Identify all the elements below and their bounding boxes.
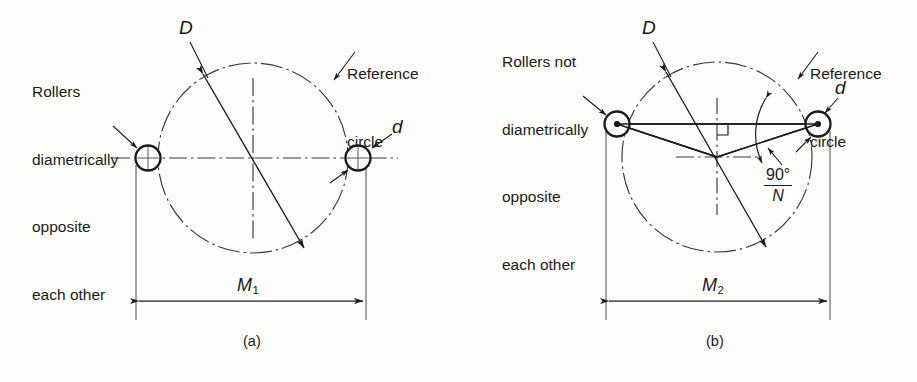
right-angle-mark-b xyxy=(717,124,728,135)
rollers-note-a-line-2: diametrically xyxy=(32,149,118,172)
angle-label-leader-b xyxy=(768,148,782,165)
roller-diameter-arrow-lower-a xyxy=(330,170,348,183)
reference-circle-label-b: Reference circle xyxy=(810,18,882,198)
dimension-label-b: M2 xyxy=(702,276,724,296)
reference-circle-label-a-line-2: circle xyxy=(347,131,419,154)
reference-circle-label-a-line-1: Reference xyxy=(347,63,419,86)
angle-fraction-numerator-b: 90° xyxy=(764,166,792,186)
panel-caption-b: (b) xyxy=(706,334,724,349)
rollers-note-b: Rollers not diametrically opposite each … xyxy=(502,6,588,321)
dimension-label-b-letter: M xyxy=(702,275,717,295)
angle-arc-b xyxy=(756,98,766,163)
diameter-arrow-b xyxy=(666,72,766,247)
figure-canvas: Rollers diametrically opposite each othe… xyxy=(0,0,917,382)
angle-fraction-b: 90° N xyxy=(764,166,792,205)
diameter-symbol-a: D xyxy=(179,18,193,37)
angle-fraction-denominator-b: N xyxy=(764,186,792,205)
rollers-note-b-line-4: each other xyxy=(502,254,588,277)
rollers-note-b-line-1: Rollers not xyxy=(502,51,588,74)
diameter-symbol-b: D xyxy=(642,18,656,37)
reference-circle-label-a: Reference circle xyxy=(347,18,419,198)
diameter-leader-a xyxy=(190,42,208,78)
roller-diameter-arrow-lower-b xyxy=(796,137,811,152)
roller-diameter-symbol-b: d xyxy=(835,78,846,97)
rollers-note-a: Rollers diametrically opposite each othe… xyxy=(32,36,118,351)
rollers-note-a-line-3: opposite xyxy=(32,216,118,239)
dimension-label-a-letter: M xyxy=(237,275,252,295)
rollers-note-a-line-1: Rollers xyxy=(32,81,118,104)
dimension-label-a: M1 xyxy=(237,276,259,296)
dimension-label-a-subscript: 1 xyxy=(252,284,259,296)
roller-left-center-dot-b xyxy=(614,121,620,127)
roller-diameter-symbol-a: d xyxy=(392,117,403,136)
diameter-leader-b xyxy=(653,42,671,77)
reference-circle-label-b-line-2: circle xyxy=(810,131,882,154)
rollers-note-b-line-3: opposite xyxy=(502,186,588,209)
dimension-label-b-subscript: 2 xyxy=(717,284,724,296)
rollers-note-b-line-2: diametrically xyxy=(502,119,588,142)
rollers-note-a-line-4: each other xyxy=(32,284,118,307)
panel-caption-a: (a) xyxy=(243,334,261,349)
